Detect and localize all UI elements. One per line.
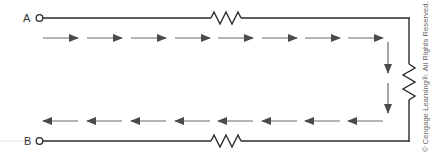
terminal-a-label: A	[23, 13, 30, 24]
terminal-a-icon	[36, 15, 43, 22]
top-resistor-icon	[211, 12, 241, 24]
right-resistor-icon	[403, 64, 415, 100]
terminal-b-label: B	[24, 136, 31, 147]
right-wire	[403, 17, 415, 141]
circuit-diagram	[0, 0, 441, 159]
bottom-resistor-icon	[211, 135, 241, 147]
terminal-b-icon	[36, 138, 43, 145]
top-wire	[43, 12, 410, 24]
copyright-text: © Cengage Learning®. All Rights Reserved…	[421, 1, 430, 152]
bottom-wire	[43, 135, 410, 147]
